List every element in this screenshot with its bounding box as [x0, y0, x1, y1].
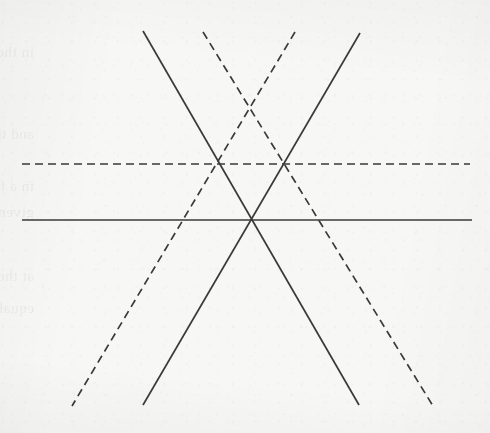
figure-canvas: in the beginning of the segmentand the r… — [0, 0, 490, 433]
dashed-diagonal-ascending — [72, 32, 295, 406]
solid-line-group — [22, 31, 472, 405]
line-figure — [0, 0, 490, 433]
dashed-line-group — [22, 32, 470, 406]
dashed-diagonal-descending — [203, 32, 433, 406]
